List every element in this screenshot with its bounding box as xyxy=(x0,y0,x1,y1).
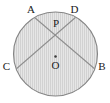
center-label-o: O xyxy=(52,59,60,71)
circle-geometry-figure: A D C B P O xyxy=(0,0,110,103)
point-label-d: D xyxy=(71,3,79,15)
point-label-a: A xyxy=(27,3,35,15)
point-label-c: C xyxy=(3,60,10,72)
point-label-p: P xyxy=(53,17,59,29)
point-label-b: B xyxy=(98,60,105,72)
center-dot-icon xyxy=(54,55,57,58)
figure-canvas: A D C B P O xyxy=(0,0,110,103)
